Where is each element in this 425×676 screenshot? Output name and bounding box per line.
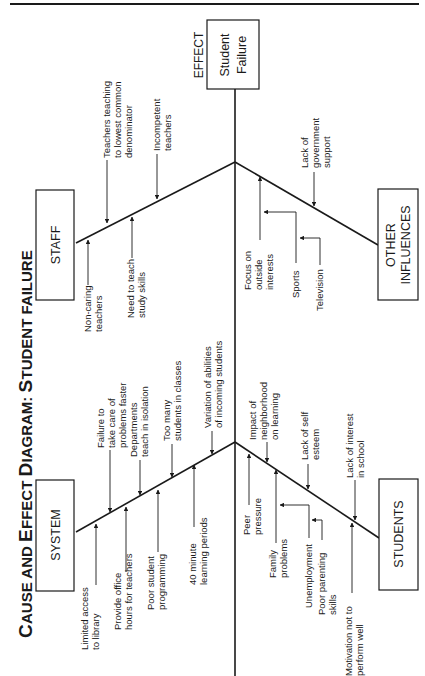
other-influences-label-2: INFLUENCES	[399, 205, 413, 284]
other-cause-3: Television	[314, 269, 325, 311]
svg-text:Peerpressure: Peerpressure	[241, 498, 263, 535]
effect-line1: Student	[218, 33, 232, 77]
other-influences-bone	[235, 162, 378, 245]
svg-text:Need to teachstudy skills: Need to teachstudy skills	[125, 259, 147, 318]
svg-text:CAUSE AND EFFECT DIAGRAM: STUD: CAUSE AND EFFECT DIAGRAM: STUDENT FAILUR…	[15, 250, 36, 638]
other-influences-box: OTHER INFLUENCES	[378, 189, 418, 300]
students-cause-2: Impact ofneighborhoodon learning	[247, 382, 280, 440]
students-box: STUDENTS	[379, 479, 418, 590]
svg-text:Variation of abilitiesof incom: Variation of abilitiesof incoming studen…	[202, 341, 224, 428]
students-cause-8: Lack of interestin school	[344, 413, 366, 478]
svg-text:Failure totake care ofproblems: Failure totake care ofproblems faster	[95, 383, 128, 448]
svg-text:Non-caringteachers: Non-caringteachers	[82, 286, 104, 332]
svg-text:Poor studentprogramming: Poor studentprogramming	[145, 554, 167, 610]
svg-text:Sports: Sports	[290, 270, 301, 298]
fishbone-diagram: CAUSE AND EFFECT DIAGRAM: STUDENT FAILUR…	[0, 0, 425, 676]
system-cause-1: Limited accessto library	[79, 587, 101, 650]
svg-text:Incompetentteachers: Incompetentteachers	[151, 98, 173, 151]
effect-line2: Failure	[235, 36, 249, 74]
staff-label: STAFF	[49, 225, 63, 264]
students-label: STUDENTS	[392, 500, 406, 567]
svg-text:Poor parentingskills: Poor parentingskills	[316, 553, 338, 615]
svg-text:Too manystudents in classes: Too manystudents in classes	[161, 360, 183, 441]
system-cause-6: Too manystudents in classes	[161, 360, 183, 441]
staff-cause-3: Teachers teachingto lowest commondenomin…	[101, 81, 134, 158]
svg-text:Teachers teachingto lowest com: Teachers teachingto lowest commondenomin…	[101, 81, 134, 158]
other-influences-label-1: OTHER	[384, 223, 398, 267]
students-cause-5-arrow	[312, 520, 322, 540]
effect-tag: EFFECT	[192, 31, 206, 78]
svg-text:Impact ofneighborhoodon learni: Impact ofneighborhoodon learning	[247, 382, 280, 440]
system-cause-4: Poor studentprogramming	[145, 554, 167, 610]
students-cause-1: Peerpressure	[241, 498, 263, 535]
effect-box: Student Failure EFFECT	[192, 20, 259, 89]
students-cause-6: Lack of selfesteem	[299, 412, 321, 460]
svg-text:Lack of interestin school: Lack of interestin school	[344, 413, 366, 478]
system-cause-8: Variation of abilitiesof incoming studen…	[202, 341, 224, 428]
svg-text:Lack ofgovernmentsupport: Lack ofgovernmentsupport	[299, 117, 332, 168]
other-cause-1: Focus onoutsideinterests	[242, 251, 275, 290]
staff-cause-1: Non-caringteachers	[82, 286, 104, 332]
staff-bone	[76, 162, 235, 243]
svg-text:Focus onoutsideinterests: Focus onoutsideinterests	[242, 251, 275, 290]
system-label: SYSTEM	[49, 509, 63, 560]
students-cause-4-arrow	[280, 505, 309, 538]
svg-text:Familyproblems: Familyproblems	[267, 539, 289, 578]
staff-box: STAFF	[36, 190, 74, 300]
other-cause-2: Sports	[290, 270, 301, 298]
students-cause-5: Poor parentingskills	[316, 553, 338, 615]
svg-text:Unemployment: Unemployment	[303, 544, 314, 608]
students-cause-4: Unemployment	[303, 544, 314, 608]
system-box: SYSTEM	[36, 480, 74, 591]
svg-text:Lack of selfesteem: Lack of selfesteem	[299, 412, 321, 460]
svg-text:40 minutelearning periods: 40 minutelearning periods	[187, 517, 209, 585]
other-cause-3-arrow	[300, 238, 320, 265]
svg-text:Limited accessto library: Limited accessto library	[79, 587, 101, 650]
staff-cause-4: Incompetentteachers	[151, 98, 173, 151]
svg-text:Motivation not toperform well: Motivation not toperform well	[343, 606, 365, 676]
svg-text:Provide officehours for teache: Provide officehours for teachers	[112, 553, 134, 630]
system-cause-5: Departmentsteach in isolation	[128, 386, 150, 457]
students-cause-3: Familyproblems	[267, 539, 289, 578]
system-cause-2: Provide officehours for teachers	[112, 553, 134, 630]
system-cause-3: Failure totake care ofproblems faster	[95, 383, 128, 448]
svg-text:Television: Television	[314, 269, 325, 311]
system-cause-7: 40 minutelearning periods	[187, 517, 209, 585]
students-cause-7: Motivation not toperform well	[343, 606, 365, 676]
other-cause-4: Lack ofgovernmentsupport	[299, 117, 332, 168]
diagram-title: CAUSE AND EFFECT DIAGRAM: STUDENT FAILUR…	[15, 250, 36, 638]
svg-text:Departmentsteach in isolation: Departmentsteach in isolation	[128, 386, 150, 457]
staff-cause-2: Need to teachstudy skills	[125, 259, 147, 318]
system-bone	[76, 442, 235, 532]
